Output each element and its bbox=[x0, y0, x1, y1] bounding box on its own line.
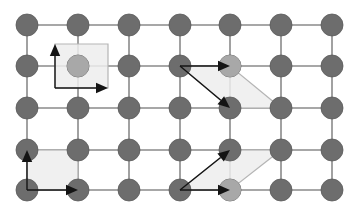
lattice-site-r2-c3 bbox=[169, 97, 191, 119]
lattice-site-r0-c3 bbox=[169, 14, 191, 36]
lattice-site-r4-c6 bbox=[321, 179, 343, 201]
lattice-site-r4-c5 bbox=[270, 179, 292, 201]
lattice-site-r0-c0 bbox=[16, 14, 38, 36]
lattice-site-r2-c0 bbox=[16, 97, 38, 119]
lattice-site-r3-c5 bbox=[270, 139, 292, 161]
lattice-site-r3-c1 bbox=[67, 139, 89, 161]
lattice-site-r4-c2 bbox=[118, 179, 140, 201]
lattice-site-r0-c2 bbox=[118, 14, 140, 36]
lattice-site-r2-c6 bbox=[321, 97, 343, 119]
lattice-site-r3-c3 bbox=[169, 139, 191, 161]
lattice-site-r0-c6 bbox=[321, 14, 343, 36]
lattice-site-r0-c5 bbox=[270, 14, 292, 36]
lattice-site-r0-c4 bbox=[219, 14, 241, 36]
lattice-site-r2-c1 bbox=[67, 97, 89, 119]
lattice-site-r1-c6 bbox=[321, 55, 343, 77]
lattice-site-r1-c0 bbox=[16, 55, 38, 77]
lattice-site-r2-c2 bbox=[118, 97, 140, 119]
ghost-site-unit-cell-top-left-square bbox=[67, 55, 89, 77]
lattice-site-r3-c6 bbox=[321, 139, 343, 161]
lattice-site-r1-c2 bbox=[118, 55, 140, 77]
lattice-site-r3-c2 bbox=[118, 139, 140, 161]
lattice-site-r0-c1 bbox=[67, 14, 89, 36]
lattice-site-r2-c5 bbox=[270, 97, 292, 119]
lattice-site-r1-c5 bbox=[270, 55, 292, 77]
lattice-canvas bbox=[0, 0, 358, 216]
lattice-figure bbox=[0, 0, 358, 216]
